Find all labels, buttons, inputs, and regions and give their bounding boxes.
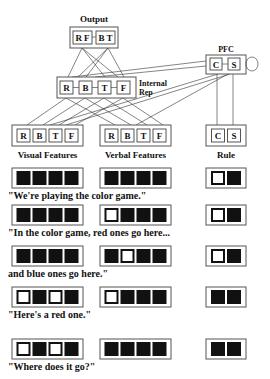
active-unit bbox=[65, 342, 79, 356]
input-layer-label: Verbal Features bbox=[105, 150, 167, 160]
active-unit bbox=[49, 171, 63, 185]
active-unit bbox=[17, 208, 31, 222]
internal-rep-title-line2: Rep bbox=[139, 88, 153, 97]
pfc-layer: PFC C S bbox=[206, 45, 258, 74]
trial-caption: and blue ones go here." bbox=[8, 268, 108, 279]
active-unit bbox=[137, 342, 151, 356]
internal-rep-layer: RBTF Internal Rep bbox=[57, 77, 168, 98]
active-unit bbox=[105, 249, 119, 263]
connection-line bbox=[27, 98, 66, 125]
input-unit-label: T bbox=[140, 131, 146, 141]
inactive-unit bbox=[50, 343, 62, 355]
input-layer-visual-features: RBTFVisual Features bbox=[12, 125, 83, 160]
active-unit bbox=[105, 342, 119, 356]
input-unit-label: R bbox=[20, 131, 27, 141]
active-unit bbox=[49, 208, 63, 222]
connection-line bbox=[75, 98, 123, 125]
output-layer: Output R F B T bbox=[70, 14, 118, 48]
inactive-unit bbox=[122, 250, 134, 262]
active-unit bbox=[121, 290, 135, 304]
active-unit bbox=[153, 290, 167, 304]
output-title: Output bbox=[80, 14, 108, 24]
input-layer-label: Visual Features bbox=[18, 150, 78, 160]
input-unit-label: T bbox=[52, 131, 58, 141]
inactive-unit bbox=[212, 172, 224, 184]
active-unit bbox=[227, 342, 241, 356]
input-layer-label: Rule bbox=[217, 150, 235, 160]
output-unit-rf-label: R F bbox=[75, 33, 90, 43]
trial-row: "Where does it go?" bbox=[8, 339, 246, 372]
active-unit bbox=[227, 249, 241, 263]
active-unit bbox=[153, 171, 167, 185]
active-unit bbox=[65, 249, 79, 263]
inactive-unit bbox=[18, 343, 30, 355]
active-unit bbox=[65, 290, 79, 304]
trial-row: "We're playing the color game." bbox=[8, 168, 246, 201]
pfc-recurrent-loop-icon bbox=[246, 57, 258, 71]
internal-rep-unit-label: R bbox=[63, 83, 70, 93]
input-unit-label: R bbox=[108, 131, 115, 141]
active-unit bbox=[33, 249, 47, 263]
input-unit-label: F bbox=[157, 131, 163, 141]
trial-caption: "Where does it go?" bbox=[8, 361, 95, 372]
active-unit bbox=[121, 342, 135, 356]
pfc-unit-c-label: C bbox=[213, 60, 220, 70]
active-unit bbox=[227, 208, 241, 222]
active-unit bbox=[49, 249, 63, 263]
inactive-unit bbox=[212, 209, 224, 221]
output-unit-bt-label: B T bbox=[98, 33, 112, 43]
internal-rep-unit-label: F bbox=[121, 83, 127, 93]
active-unit bbox=[33, 208, 47, 222]
inactive-unit bbox=[212, 250, 224, 262]
input-layer-verbal-features: RBTFVerbal Features bbox=[100, 125, 171, 160]
connection-line bbox=[86, 48, 108, 77]
input-layers: RBTFVisual FeaturesRBTFVerbal FeaturesCS… bbox=[12, 125, 246, 160]
trial-caption: "Here's a red one." bbox=[8, 309, 91, 320]
pfc-title: PFC bbox=[218, 45, 234, 54]
trial-row: "In the color game, red ones go here... bbox=[8, 205, 246, 238]
active-unit bbox=[137, 290, 151, 304]
active-unit bbox=[137, 171, 151, 185]
connection-line bbox=[82, 48, 118, 77]
active-unit bbox=[17, 171, 31, 185]
active-unit bbox=[227, 290, 241, 304]
active-unit bbox=[17, 249, 31, 263]
inactive-unit bbox=[106, 291, 118, 303]
active-unit bbox=[121, 171, 135, 185]
active-unit bbox=[211, 342, 225, 356]
internal-rep-unit-label: T bbox=[101, 83, 107, 93]
inactive-unit bbox=[50, 291, 62, 303]
inactive-unit bbox=[106, 209, 118, 221]
trial-caption: "We're playing the color game." bbox=[8, 190, 146, 201]
input-unit-label: B bbox=[36, 131, 42, 141]
internal-rep-title: Internal bbox=[139, 79, 168, 88]
input-unit-label: B bbox=[124, 131, 130, 141]
active-unit bbox=[153, 342, 167, 356]
active-unit bbox=[227, 171, 241, 185]
pfc-unit-s-label: S bbox=[231, 60, 236, 70]
connection-line bbox=[68, 48, 82, 77]
trial-row: "Here's a red one." bbox=[8, 287, 246, 320]
input-layer-rule: CSRule bbox=[206, 125, 246, 160]
active-unit bbox=[137, 208, 151, 222]
input-unit-label: F bbox=[69, 131, 75, 141]
inactive-unit bbox=[18, 291, 30, 303]
diagram-canvas: Output R F B T PFC C S RBTF Internal Rep bbox=[0, 0, 270, 379]
connection-line bbox=[59, 98, 104, 125]
trial-row: and blue ones go here." bbox=[8, 246, 246, 279]
trial-sequence: "We're playing the color game.""In the c… bbox=[8, 168, 246, 372]
active-unit bbox=[33, 290, 47, 304]
active-unit bbox=[33, 342, 47, 356]
trial-caption: "In the color game, red ones go here... bbox=[8, 227, 170, 238]
active-unit bbox=[65, 171, 79, 185]
active-unit bbox=[153, 208, 167, 222]
input-unit-label: S bbox=[231, 131, 236, 141]
pfc-model-diagram: Output R F B T PFC C S RBTF Internal Rep bbox=[0, 0, 270, 379]
active-unit bbox=[33, 171, 47, 185]
connection-line bbox=[82, 48, 105, 77]
active-unit bbox=[65, 208, 79, 222]
active-unit bbox=[211, 290, 225, 304]
internal-rep-unit-label: B bbox=[82, 83, 88, 93]
input-unit-label: C bbox=[215, 131, 222, 141]
active-unit bbox=[105, 171, 119, 185]
